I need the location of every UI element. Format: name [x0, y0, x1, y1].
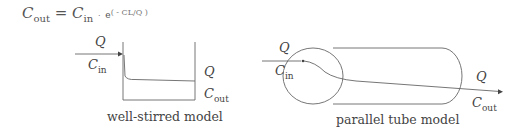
ws-c-out: Cout [204, 86, 229, 104]
ws-q-in: Q [95, 34, 106, 49]
arrowhead-icon [118, 52, 123, 57]
pt-c-in: Cin [275, 63, 294, 81]
tube-outline [333, 48, 462, 104]
arrowhead-icon [498, 89, 503, 94]
diagram-canvas [0, 0, 527, 129]
pt-q-out: Q [476, 69, 487, 84]
ws-c-in: Cin [88, 57, 107, 75]
concentration-curve [124, 55, 195, 81]
pt-c-out: Cout [472, 95, 497, 113]
parallel-tube-diagram [262, 48, 503, 104]
pt-caption: parallel tube model [336, 112, 459, 127]
concentration-curve [304, 61, 500, 92]
ws-caption: well-stirred model [107, 109, 223, 124]
ws-q-out: Q [204, 64, 215, 79]
pt-q-in: Q [279, 40, 290, 55]
entry-point-icon [302, 60, 305, 63]
